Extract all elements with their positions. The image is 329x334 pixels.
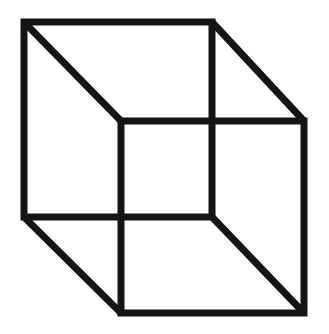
necker-cube-figure xyxy=(0,0,329,334)
cube-drawing-canvas xyxy=(0,0,329,334)
